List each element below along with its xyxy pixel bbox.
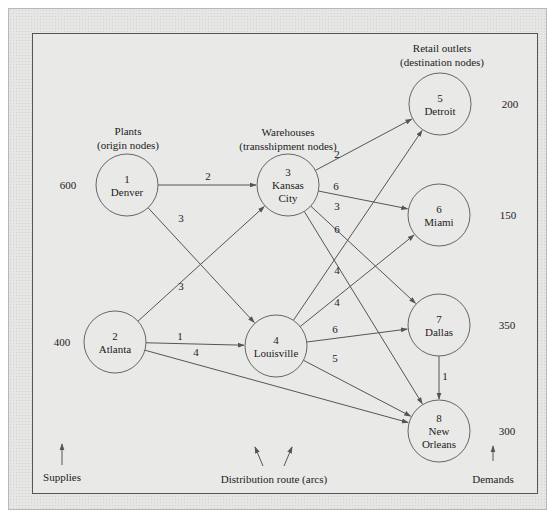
node-name: Dallas [425, 326, 453, 338]
warehouses-subtitle: (transshipment nodes) [239, 140, 337, 153]
node-name: Louisville [254, 347, 299, 359]
arc-cost-label: 6 [333, 180, 339, 192]
arc-3-8 [304, 211, 422, 403]
arc-cost-label: 4 [193, 346, 199, 358]
node-number: 2 [112, 330, 118, 342]
node-quantity: 600 [60, 179, 77, 191]
node-number: 6 [436, 203, 442, 215]
supplies-label: Supplies [43, 471, 81, 483]
node-1: 1Denver600 [60, 154, 158, 216]
arc-4-8 [303, 360, 410, 416]
arc-cost-label: 6 [332, 323, 338, 335]
arc-cost-label: 1 [177, 330, 183, 342]
routes-label: Distribution route (arcs) [221, 473, 328, 486]
arc-4-7 [307, 329, 408, 342]
warehouses-title: Warehouses [262, 126, 315, 138]
route-arrow-left-icon [255, 447, 263, 466]
node-quantity: 150 [500, 209, 517, 221]
node-name: Orleans [422, 438, 456, 450]
node-6: 6Miami150 [408, 184, 517, 246]
node-number: 1 [124, 173, 130, 185]
node-5: 5Detroit200 [409, 73, 519, 135]
route-arrow-right-icon [284, 447, 292, 466]
node-quantity: 400 [54, 336, 71, 348]
node-name: Atlanta [99, 343, 131, 355]
node-number: 3 [285, 166, 291, 178]
node-2: 2Atlanta400 [54, 311, 146, 373]
arc-cost-label: 2 [205, 170, 211, 182]
arc-2-4 [146, 343, 244, 345]
node-name: City [279, 192, 298, 204]
node-quantity: 350 [499, 319, 516, 331]
arc-cost-label: 5 [332, 352, 338, 364]
arc-1-4 [148, 208, 254, 323]
node-quantity: 200 [502, 98, 519, 110]
transshipment-network: 23314263644651 1Denver6002Atlanta4003Kan… [0, 0, 554, 529]
node-3: 3KansasCity [257, 154, 319, 216]
node-name: Kansas [272, 179, 304, 191]
node-7: 7Dallas350 [408, 294, 516, 356]
arc-cost-label: 4 [334, 296, 340, 308]
arc-cost-label: 3 [334, 200, 340, 212]
arc-cost-label: 6 [334, 223, 340, 235]
retail-title: Retail outlets [413, 42, 471, 54]
arc-cost-label: 1 [442, 370, 448, 382]
arc-cost-label: 4 [334, 264, 340, 276]
node-number: 8 [436, 412, 442, 424]
arc-cost-label: 3 [178, 212, 184, 224]
node-8: 8NewOrleans300 [408, 400, 516, 462]
plants-title: Plants [115, 125, 142, 137]
node-quantity: 300 [499, 425, 516, 437]
node-number: 5 [437, 92, 443, 104]
arc-3-7 [311, 206, 416, 303]
node-name: New [429, 425, 450, 437]
retail-subtitle: (destination nodes) [400, 56, 484, 69]
arc-cost-label: 3 [178, 280, 184, 292]
arc-2-3 [138, 207, 264, 322]
node-name: Miami [424, 216, 453, 228]
node-4: 4Louisville [245, 315, 307, 377]
node-number: 7 [436, 313, 442, 325]
node-name: Detroit [424, 105, 455, 117]
node-number: 4 [273, 334, 279, 346]
demands-label: Demands [472, 473, 514, 485]
node-name: Denver [111, 186, 144, 198]
plants-subtitle: (origin nodes) [97, 139, 159, 152]
arc-3-6 [318, 191, 407, 209]
